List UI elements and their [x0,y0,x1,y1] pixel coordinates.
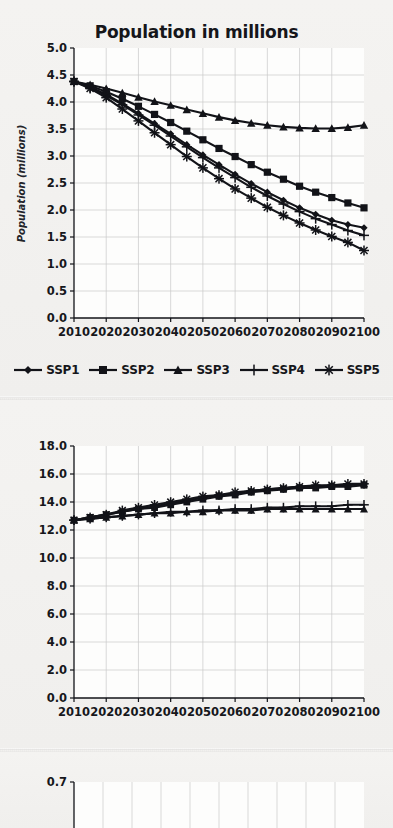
panel-divider-1 [0,396,393,398]
panel-divider-2 [0,748,393,750]
svg-text:4.5: 4.5 [47,68,67,82]
svg-text:4.0: 4.0 [47,635,67,649]
svg-text:6.0: 6.0 [47,607,67,621]
plus-marker-icon [239,362,269,378]
svg-text:2040: 2040 [155,705,187,719]
square-marker-icon [88,362,118,378]
svg-text:3.5: 3.5 [47,122,67,136]
svg-text:2020: 2020 [90,705,122,719]
svg-text:2.0: 2.0 [47,663,67,677]
svg-text:2020: 2020 [90,325,122,339]
svg-text:1.0: 1.0 [47,257,67,271]
svg-text:0.5: 0.5 [47,284,67,298]
svg-text:2010: 2010 [58,325,90,339]
legend-entry-ssp3: SSP3 [163,362,229,378]
legend-label: SSP1 [46,363,79,377]
svg-text:2060: 2060 [219,705,251,719]
triangle-marker-icon [163,362,193,378]
svg-text:2050: 2050 [187,325,219,339]
legend-entry-ssp1: SSP1 [13,362,79,378]
svg-text:2.0: 2.0 [47,203,67,217]
svg-text:0.0: 0.0 [47,691,67,705]
plot-area-proportion65: 0.7 [0,752,393,828]
svg-text:14.0: 14.0 [39,495,67,509]
chart-panel-proportion65: Proportion age 65+ 0.7 [0,752,393,828]
plot-area-schooling: 0.02.04.06.08.010.012.014.016.018.020102… [0,400,393,748]
svg-text:2060: 2060 [219,325,251,339]
scanned-page: Population in millions Population (milli… [0,0,393,828]
legend-label: SSP3 [196,363,229,377]
svg-text:0.0: 0.0 [47,311,67,325]
svg-text:0.7: 0.7 [47,775,67,789]
svg-text:2030: 2030 [122,705,154,719]
svg-text:2070: 2070 [251,325,283,339]
legend-entry-ssp2: SSP2 [88,362,154,378]
svg-text:2090: 2090 [316,705,348,719]
svg-text:12.0: 12.0 [39,523,67,537]
diamond-marker-icon [13,362,43,378]
legend-ssp: SSP1SSP2SSP3SSP4SSP5 [0,362,393,378]
svg-text:2080: 2080 [284,325,316,339]
svg-text:2080: 2080 [284,705,316,719]
legend-entry-ssp4: SSP4 [239,362,305,378]
svg-text:10.0: 10.0 [39,551,67,565]
svg-text:8.0: 8.0 [47,579,67,593]
svg-text:3.0: 3.0 [47,149,67,163]
chart-panel-schooling: Mean years of schooling, age 25+ Mean Ye… [0,400,393,748]
svg-text:2100: 2100 [348,705,380,719]
svg-text:2100: 2100 [348,325,380,339]
svg-text:18.0: 18.0 [39,439,67,453]
chart-panel-population: Population in millions Population (milli… [0,0,393,398]
svg-text:1.5: 1.5 [47,230,67,244]
legend-entry-ssp5: SSP5 [314,362,380,378]
asterisk-marker-icon [314,362,344,378]
svg-text:4.0: 4.0 [47,95,67,109]
legend-label: SSP4 [272,363,305,377]
legend-label: SSP2 [121,363,154,377]
svg-text:2070: 2070 [251,705,283,719]
svg-text:2090: 2090 [316,325,348,339]
svg-text:2010: 2010 [58,705,90,719]
svg-text:2040: 2040 [155,325,187,339]
svg-text:16.0: 16.0 [39,467,67,481]
svg-text:5.0: 5.0 [47,41,67,55]
svg-text:2.5: 2.5 [47,176,67,190]
plot-area-population: 0.00.51.01.52.02.53.03.54.04.55.02010202… [0,0,393,398]
legend-label: SSP5 [347,363,380,377]
svg-text:2050: 2050 [187,705,219,719]
svg-text:2030: 2030 [122,325,154,339]
